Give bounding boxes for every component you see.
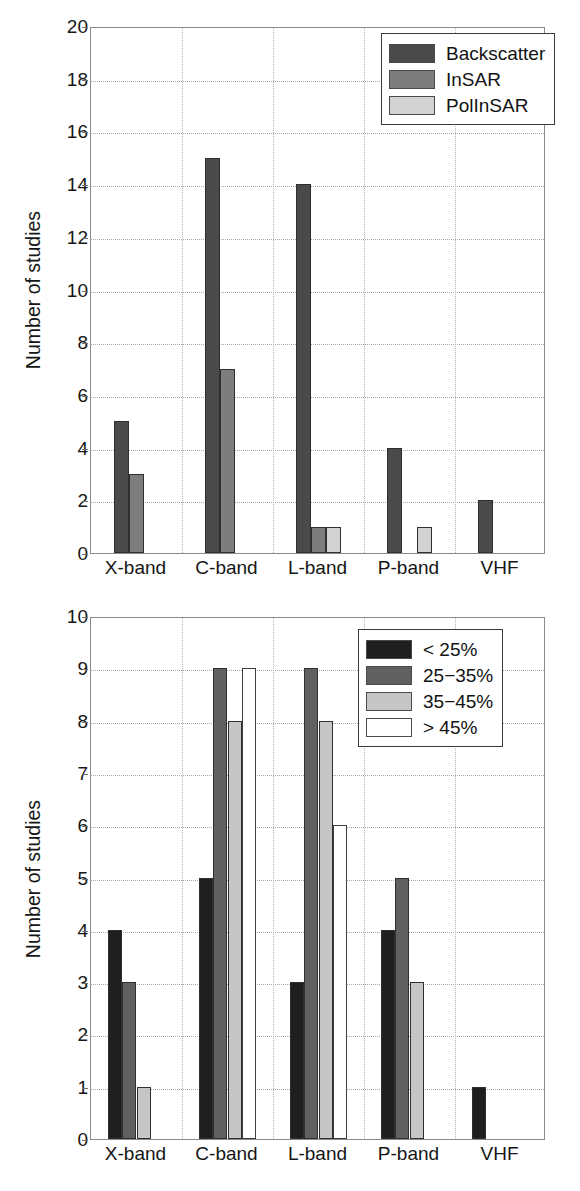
y-tick-label: 18 <box>36 70 88 89</box>
y-tick-label: 20 <box>36 17 88 36</box>
y-tick-mark <box>82 80 88 81</box>
y-tick-mark <box>82 343 88 344</box>
legend-bottom: < 25%25−35%35−45%> 45% <box>358 629 503 747</box>
bar <box>242 668 256 1139</box>
y-tick-mark <box>82 27 88 28</box>
bar <box>395 878 409 1140</box>
legend-item: < 25% <box>366 636 493 662</box>
legend-item: Backscatter <box>389 40 545 66</box>
y-tick-mark <box>82 617 88 618</box>
y-tick-label: 6 <box>36 386 88 405</box>
y-tick-mark <box>82 931 88 932</box>
legend-swatch-icon <box>389 70 435 89</box>
bar <box>333 825 347 1139</box>
legend-label: > 45% <box>423 718 477 737</box>
legend-item: InSAR <box>389 66 545 92</box>
x-tick-label: VHF <box>445 1144 555 1164</box>
y-tick-label: 8 <box>36 333 88 352</box>
bottom-bar-chart-panel: Number of studies 012345678910 X-bandC-b… <box>0 596 580 1191</box>
y-tick-label: 14 <box>36 175 88 194</box>
y-tick-label: 1 <box>36 1078 88 1097</box>
legend-label: < 25% <box>423 640 477 659</box>
bar <box>381 930 395 1139</box>
y-tick-mark <box>82 238 88 239</box>
legend-swatch-icon <box>389 96 435 115</box>
bar <box>199 878 213 1140</box>
y-tick-mark <box>82 826 88 827</box>
y-tick-mark <box>82 1035 88 1036</box>
bar <box>472 1087 486 1139</box>
y-tick-label: 4 <box>36 439 88 458</box>
y-tick-label: 10 <box>36 281 88 300</box>
bar <box>296 184 311 553</box>
bar <box>213 668 227 1139</box>
y-tick-mark <box>82 983 88 984</box>
bar <box>478 500 493 553</box>
y-tick-mark <box>82 879 88 880</box>
bar <box>137 1087 151 1139</box>
y-tick-mark <box>82 669 88 670</box>
y-tick-label: 9 <box>36 659 88 678</box>
x-tick-label: VHF <box>445 558 555 578</box>
bar <box>290 982 304 1139</box>
bar <box>205 158 220 553</box>
legend-swatch-icon <box>366 666 412 685</box>
legend-item: > 45% <box>366 714 493 740</box>
y-tick-mark <box>82 291 88 292</box>
legend-label: PolInSAR <box>446 96 528 115</box>
legend-item: 35−45% <box>366 688 493 714</box>
y-tick-mark <box>82 449 88 450</box>
legend-label: Backscatter <box>446 44 545 63</box>
bar <box>387 448 402 553</box>
bar <box>122 982 136 1139</box>
bar <box>326 527 341 553</box>
y-tick-label: 12 <box>36 228 88 247</box>
bar <box>304 668 318 1139</box>
bar <box>410 982 424 1139</box>
y-tick-label: 8 <box>36 712 88 731</box>
y-tick-mark <box>82 722 88 723</box>
y-tick-label: 6 <box>36 816 88 835</box>
bar <box>114 421 129 553</box>
legend-item: 25−35% <box>366 662 493 688</box>
y-tick-label: 2 <box>36 491 88 510</box>
bar <box>417 527 432 553</box>
legend-label: 25−35% <box>423 666 493 685</box>
y-tick-label: 4 <box>36 921 88 940</box>
top-bar-chart-panel: Number of studies 02468101214161820 X-ba… <box>0 0 580 596</box>
bar <box>129 474 144 553</box>
y-tick-mark <box>82 1088 88 1089</box>
bar <box>319 721 333 1139</box>
y-tick-mark <box>82 396 88 397</box>
y-tick-mark <box>82 501 88 502</box>
y-tick-mark <box>82 132 88 133</box>
y-tick-label: 5 <box>36 869 88 888</box>
legend-swatch-icon <box>366 718 412 737</box>
y-tick-label: 2 <box>36 1025 88 1044</box>
y-tick-label: 3 <box>36 973 88 992</box>
legend-top: BackscatterInSARPolInSAR <box>381 33 555 125</box>
legend-swatch-icon <box>366 692 412 711</box>
legend-swatch-icon <box>366 640 412 659</box>
bar <box>311 527 326 553</box>
y-tick-mark <box>82 185 88 186</box>
legend-label: InSAR <box>446 70 501 89</box>
legend-item: PolInSAR <box>389 92 545 118</box>
y-tick-mark <box>82 774 88 775</box>
legend-label: 35−45% <box>423 692 493 711</box>
y-tick-mark <box>82 1140 88 1141</box>
y-tick-mark <box>82 554 88 555</box>
y-axis-ticks-top: 02468101214161820 <box>26 0 88 584</box>
legend-swatch-icon <box>389 44 435 63</box>
y-tick-label: 16 <box>36 122 88 141</box>
y-tick-label: 7 <box>36 764 88 783</box>
y-tick-label: 10 <box>36 607 88 626</box>
y-axis-ticks-bottom: 012345678910 <box>26 596 88 1170</box>
bar <box>220 369 235 553</box>
bar <box>228 721 242 1139</box>
bar <box>108 930 122 1139</box>
